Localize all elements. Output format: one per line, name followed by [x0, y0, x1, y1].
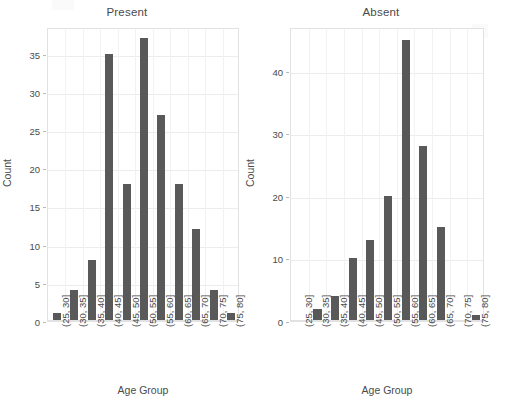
x-tick-label: (65, 70]	[444, 295, 455, 327]
y-tick-label: 20	[0, 164, 40, 175]
x-tick-label: (65, 70]	[199, 295, 210, 327]
x-tick-label: (30, 35]	[77, 295, 88, 327]
x-tick-label: (30, 35]	[320, 295, 331, 327]
y-tick-mark	[43, 246, 46, 247]
x-axis-label-present: Age Group	[47, 384, 239, 396]
y-tick-label: 0	[0, 317, 40, 328]
y-tick-label: 10	[254, 254, 283, 265]
y-tick-mark	[43, 322, 46, 323]
y-tick-label: 10	[0, 240, 40, 251]
x-tick-label: (25, 30]	[303, 295, 314, 327]
y-tick-label: 5	[0, 278, 40, 289]
y-tick-mark	[43, 55, 46, 56]
x-tick-label: (40, 45]	[356, 295, 367, 327]
y-tick-mark	[286, 259, 289, 260]
y-tick-label: 30	[0, 87, 40, 98]
x-tick-label: (70, 75]	[462, 295, 473, 327]
x-tick-label: (75, 80]	[479, 295, 490, 327]
plot-area-absent	[290, 28, 484, 322]
y-tick-label: 0	[254, 317, 283, 328]
x-tick-label: (40, 45]	[112, 295, 123, 327]
y-tick-label: 40	[254, 66, 283, 77]
x-tick-label: (55, 60]	[409, 295, 420, 327]
bar[interactable]	[157, 115, 165, 321]
y-tick-label: 25	[0, 126, 40, 137]
bar-series-absent	[291, 29, 483, 321]
x-tick-label: (25, 30]	[60, 295, 71, 327]
x-tick-label: (45, 50]	[130, 295, 141, 327]
x-tick-label: (50, 55]	[391, 295, 402, 327]
y-tick-label: 20	[254, 191, 283, 202]
x-tick-label: (60, 65]	[182, 295, 193, 327]
y-tick-mark	[286, 72, 289, 73]
x-tick-label: (50, 55]	[147, 295, 158, 327]
x-tick-label: (35, 40]	[338, 295, 349, 327]
x-tick-label: (60, 65]	[426, 295, 437, 327]
x-axis-label-absent: Age Group	[290, 384, 484, 396]
x-tick-label: (70, 75]	[217, 295, 228, 327]
panel-present: Present Count 05101520253035 (25, 30](30…	[0, 0, 254, 401]
y-tick-mark	[286, 134, 289, 135]
bar[interactable]	[402, 40, 410, 321]
bar[interactable]	[140, 38, 148, 321]
panel-absent: Absent Count 010203040 (25, 30](30, 35](…	[254, 0, 508, 401]
y-tick-mark	[43, 207, 46, 208]
y-tick-label: 35	[0, 49, 40, 60]
y-tick-label: 30	[254, 129, 283, 140]
panel-title-present: Present	[0, 6, 254, 18]
x-tick-label: (55, 60]	[164, 295, 175, 327]
x-tick-label: (75, 80]	[234, 295, 245, 327]
y-tick-mark	[286, 197, 289, 198]
bar[interactable]	[105, 54, 113, 321]
x-tick-label: (35, 40]	[95, 295, 106, 327]
y-tick-label: 15	[0, 202, 40, 213]
bar-series-present	[48, 29, 238, 321]
y-tick-mark	[43, 93, 46, 94]
plot-area-present	[47, 28, 239, 322]
y-tick-mark	[43, 169, 46, 170]
panel-title-absent: Absent	[254, 6, 508, 18]
y-tick-mark	[43, 284, 46, 285]
y-tick-mark	[286, 322, 289, 323]
x-tick-label: (45, 50]	[373, 295, 384, 327]
y-tick-mark	[43, 131, 46, 132]
figure-root: Present Count 05101520253035 (25, 30](30…	[0, 0, 508, 401]
